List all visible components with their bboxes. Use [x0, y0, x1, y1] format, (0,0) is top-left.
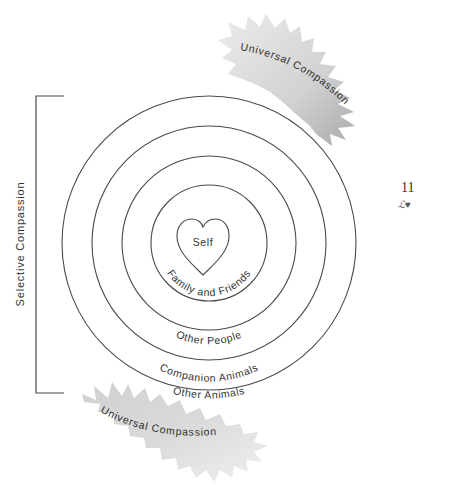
- ring-label-companion-animals: Companion Animals: [158, 361, 260, 384]
- selective-compassion-label: Selective Compassion: [14, 182, 26, 307]
- selective-compassion-bracket: Selective Compassion: [14, 96, 64, 393]
- ornament-mark: ℒ♥: [398, 199, 411, 210]
- page-number: 11: [401, 180, 414, 196]
- ring-label-self: Self: [193, 236, 214, 248]
- ring-label-family-and-friends: Family and Friends: [165, 267, 253, 298]
- ring-label-other-animals: Other Animals: [172, 384, 246, 400]
- universal-compassion-burst-top: Universal Compassion: [218, 14, 355, 146]
- compassion-diagram: Universal Compassion Universal Compassio…: [0, 0, 453, 485]
